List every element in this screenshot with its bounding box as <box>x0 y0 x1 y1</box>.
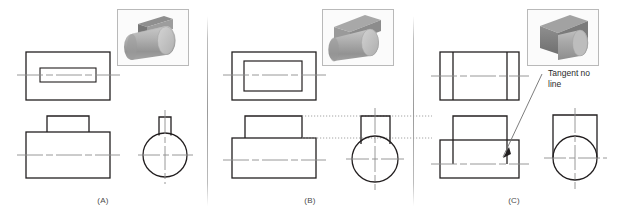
panel-b-side-view <box>336 102 422 194</box>
tangent-note-line-2: line <box>548 79 618 90</box>
panel-a-top-view-drawing <box>14 44 134 106</box>
panel-c-side-view-drawing <box>538 102 620 196</box>
tangent-note-line-1: Tangent no <box>548 68 618 79</box>
panel-a-side-view <box>132 102 212 194</box>
technical-drawing-figure: (A) <box>0 0 620 222</box>
tangent-no-line-note: Tangent no line <box>548 68 618 90</box>
panel-b-top-view <box>220 44 340 106</box>
panel-label-c: (C) <box>494 196 534 205</box>
panel-a-top-view <box>14 44 134 106</box>
panel-b-top-view-drawing <box>220 44 340 106</box>
panel-a-front-view <box>14 110 134 188</box>
panel-a-side-view-drawing <box>132 102 212 194</box>
panel-a-front-view-drawing <box>14 110 134 188</box>
panel-label-b: (B) <box>290 196 330 205</box>
panel-c-side-view <box>538 102 620 196</box>
panel-label-a: (A) <box>83 196 123 205</box>
panel-b-side-view-drawing <box>336 102 422 194</box>
